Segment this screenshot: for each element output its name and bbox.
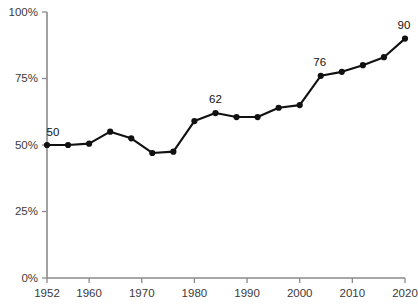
x-tick-label: 1970 — [129, 287, 155, 299]
data-point-marker — [191, 118, 197, 124]
data-point-marker — [107, 129, 113, 135]
x-tick-label: 1960 — [76, 287, 102, 299]
data-point-marker — [339, 69, 345, 75]
data-point-marker — [212, 110, 218, 116]
data-point-value-label: 76 — [313, 56, 326, 68]
line-chart: 0%25%50%75%100% 195219601970198019902000… — [0, 0, 418, 307]
data-point-marker — [381, 54, 387, 60]
data-point-value-label: 90 — [398, 19, 411, 31]
y-tick-label: 25% — [15, 205, 38, 217]
y-tick-label: 100% — [9, 6, 38, 18]
y-tick-label: 0% — [21, 272, 38, 284]
data-point-marker — [318, 73, 324, 79]
x-tick-label: 2000 — [287, 287, 313, 299]
data-point-value-label: 62 — [209, 93, 222, 105]
data-point-marker — [65, 142, 71, 148]
x-tick-label: 2020 — [392, 287, 418, 299]
data-point-marker — [360, 62, 366, 68]
y-tick-label: 50% — [15, 139, 38, 151]
data-point-marker — [254, 114, 260, 120]
data-point-marker — [297, 102, 303, 108]
data-point-marker — [86, 141, 92, 147]
x-tick-label: 2010 — [340, 287, 366, 299]
data-point-marker — [44, 142, 50, 148]
data-point-marker — [170, 149, 176, 155]
data-point-marker — [276, 105, 282, 111]
data-point-value-label: 50 — [47, 126, 60, 138]
chart-canvas: 0%25%50%75%100% 195219601970198019902000… — [0, 0, 418, 307]
data-point-marker — [149, 150, 155, 156]
data-point-marker — [402, 36, 408, 42]
chart-background — [0, 0, 418, 307]
data-point-marker — [233, 114, 239, 120]
data-point-marker — [128, 135, 134, 141]
x-tick-label: 1990 — [234, 287, 260, 299]
x-tick-label: 1952 — [34, 287, 60, 299]
x-tick-label: 1980 — [182, 287, 208, 299]
y-tick-label: 75% — [15, 72, 38, 84]
